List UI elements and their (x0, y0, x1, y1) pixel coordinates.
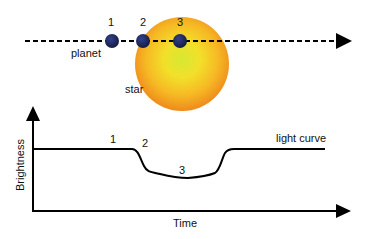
planet-position-2 (136, 34, 150, 48)
x-axis-label: Time (173, 218, 197, 229)
curve-point-3-label: 3 (179, 165, 185, 176)
y-axis-label: Brightness (15, 139, 26, 191)
path-arrowhead-icon (336, 33, 352, 49)
curve-point-1-label: 1 (110, 134, 116, 145)
position-3-label: 3 (177, 17, 183, 28)
y-axis-arrowhead-icon (26, 106, 40, 121)
planet-label: planet (71, 48, 101, 59)
planet-position-3 (173, 34, 187, 48)
position-1-label: 1 (108, 17, 114, 28)
x-axis-arrowhead-icon (336, 204, 351, 218)
transit-diagram (0, 0, 367, 239)
curve-point-2-label: 2 (142, 138, 148, 149)
star (135, 17, 229, 111)
planet-position-1 (105, 34, 119, 48)
star-label: star (125, 84, 143, 95)
light-curve-label: light curve (276, 133, 326, 144)
position-2-label: 2 (140, 17, 146, 28)
